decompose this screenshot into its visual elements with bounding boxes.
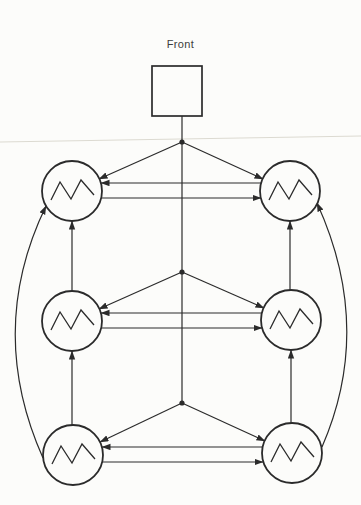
oscillator-middle-left-circle: [42, 291, 102, 351]
oscillator-top-right-circle: [260, 161, 320, 221]
oscillator-middle-right-node: [261, 290, 321, 350]
front-box: [152, 66, 202, 116]
oscillator-top-left-node: [42, 161, 102, 221]
edge-fan-row3-to-left: [100, 403, 182, 442]
edge-outer-left-curve: [15, 206, 46, 458]
oscillator-bottom-right-node: [262, 423, 322, 483]
oscillator-top-left-circle: [42, 161, 102, 221]
edge-fan-row2-to-right: [182, 272, 264, 308]
page: Front: [0, 0, 361, 505]
junction-dot-2: [179, 269, 184, 274]
oscillator-top-right-node: [260, 161, 320, 221]
junction-dot-3: [179, 400, 184, 405]
edge-fan-row1-to-left: [99, 142, 182, 179]
oscillator-bottom-right-circle: [262, 423, 322, 483]
oscillator-middle-right-circle: [261, 290, 321, 350]
edge-fan-row1-to-right: [182, 142, 263, 179]
oscillator-bottom-left-circle: [43, 425, 103, 485]
oscillator-bottom-left-node: [43, 425, 103, 485]
edge-fan-row3-to-right: [182, 403, 265, 441]
oscillator-middle-left-node: [42, 291, 102, 351]
edge-fan-row2-to-left: [99, 272, 182, 309]
circuit-diagram-svg: [0, 0, 361, 505]
junction-dot-1: [179, 139, 184, 144]
